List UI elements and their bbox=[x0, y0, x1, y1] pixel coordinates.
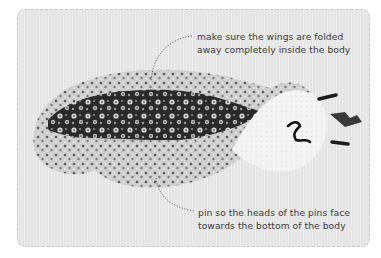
callout-bottom-line1: pin so the heads of the pins face bbox=[198, 206, 350, 219]
callout-top-line2: away completely inside the body bbox=[197, 43, 350, 56]
callout-wings-folded: make sure the wings are folded away comp… bbox=[197, 30, 350, 56]
folded-wing-fabric bbox=[42, 132, 240, 185]
callout-pin-direction: pin so the heads of the pins face toward… bbox=[198, 206, 350, 232]
callout-bottom-line2: towards the bottom of the body bbox=[198, 219, 350, 232]
ribbon-tag bbox=[330, 112, 362, 127]
callout-top-line1: make sure the wings are folded bbox=[197, 30, 350, 43]
beak-thread-top bbox=[319, 95, 336, 99]
beak-thread-bottom bbox=[332, 142, 348, 144]
